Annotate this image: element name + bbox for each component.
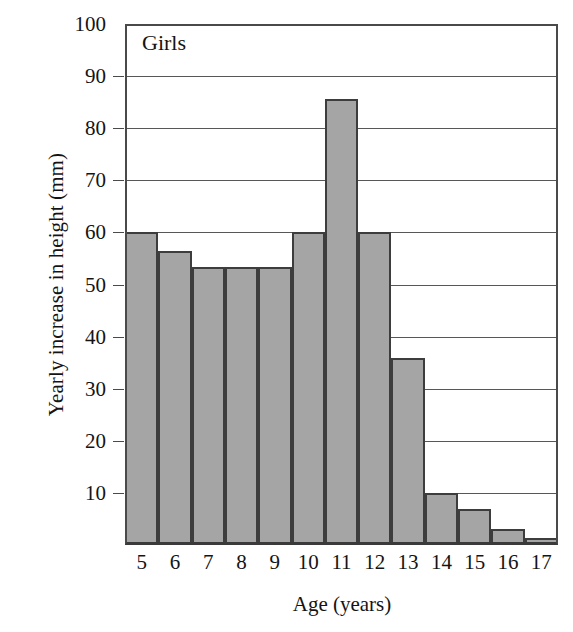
x-tick-label: 12 [358,552,391,573]
x-tick-label: 8 [225,552,258,573]
series-annotation-label: Girls [142,30,186,56]
x-tick-label: 14 [425,552,458,573]
x-tick-label: 6 [158,552,191,573]
x-tick-label: 17 [525,552,558,573]
x-tick-label: 11 [325,552,358,573]
x-tick-label: 10 [292,552,325,573]
x-tick-label: 9 [258,552,291,573]
x-tick-label: 7 [192,552,225,573]
plot-frame [125,24,558,545]
histogram-figure: Yearly increase in height (mm) Age (year… [0,0,573,632]
x-tick-label: 13 [391,552,424,573]
x-tick-label: 5 [125,552,158,573]
plot-area [125,24,558,545]
x-tick-label: 15 [458,552,491,573]
x-tick-label: 16 [491,552,524,573]
